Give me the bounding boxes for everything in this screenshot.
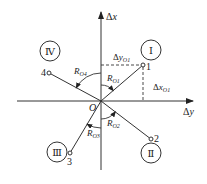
- svg-text:Ⅱ: Ⅱ: [148, 148, 155, 159]
- point-label-2: 2: [154, 133, 159, 144]
- axis-label-dx: Δx: [106, 11, 117, 22]
- point-2: [149, 137, 153, 141]
- projection-label-dx: ΔxO1: [153, 82, 170, 93]
- quadrant-badge-IV: Ⅳ: [40, 41, 60, 61]
- point-label-3: 3: [67, 156, 72, 167]
- quadrant-badge-III: Ⅲ: [47, 142, 67, 162]
- point-label-1: 1: [146, 61, 151, 72]
- radius-line-3: [71, 101, 101, 151]
- quadrant-badge-II: Ⅱ: [141, 143, 161, 163]
- svg-text:Ⅳ: Ⅳ: [45, 46, 56, 57]
- quadrant-diagram: Δx Δy O 1 2 3 4 Ⅳ Ⅰ Ⅲ Ⅱ RO1 RO4 RO2 RO3 …: [0, 0, 207, 184]
- projection-label-dy: ΔyO1: [113, 52, 130, 63]
- point-3: [68, 151, 72, 155]
- radius-label-2: RO2: [106, 118, 120, 129]
- svg-text:Ⅰ: Ⅰ: [149, 45, 153, 56]
- radius-label-1: RO1: [106, 73, 120, 84]
- radius-line-4: [51, 74, 101, 101]
- point-label-4: 4: [41, 67, 46, 78]
- radius-label-3: RO3: [86, 128, 100, 139]
- axis-label-dy: Δy: [183, 106, 194, 117]
- svg-text:Ⅲ: Ⅲ: [52, 147, 62, 158]
- radius-line-1: [101, 66, 142, 101]
- point-1: [141, 63, 145, 67]
- angle-arc-1: [101, 85, 113, 91]
- quadrant-badge-I: Ⅰ: [141, 40, 161, 60]
- radius-label-4: RO4: [73, 66, 87, 77]
- point-4: [47, 71, 51, 75]
